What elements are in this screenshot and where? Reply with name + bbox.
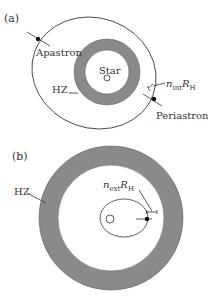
periastron-point xyxy=(152,97,156,101)
panel-a-label: (a) xyxy=(4,12,19,25)
radius-label: nextRH xyxy=(103,179,134,193)
panel-b: (b) HZ nextRH xyxy=(12,146,183,290)
radius-marker xyxy=(147,84,153,91)
panel-b-label: (b) xyxy=(12,150,28,163)
radius-leader-line xyxy=(139,190,152,211)
habitable-zone-diagram: (a) Star HZ Apastron Periastron nintRH (… xyxy=(0,0,208,301)
periastron-label: Periastron xyxy=(156,110,208,121)
radius-leader-line xyxy=(153,83,165,86)
planet-point xyxy=(145,217,149,221)
hz-label: HZ xyxy=(52,84,68,95)
panel-a: (a) Star HZ Apastron Periastron nintRH xyxy=(4,0,208,146)
star-label: Star xyxy=(99,65,121,76)
hz-label: HZ xyxy=(14,186,30,197)
star-icon xyxy=(106,215,114,223)
apastron-label: Apastron xyxy=(35,47,83,58)
orbit-ellipse xyxy=(16,0,172,146)
radius-label: nintRH xyxy=(166,78,196,92)
apastron-point xyxy=(36,37,40,41)
